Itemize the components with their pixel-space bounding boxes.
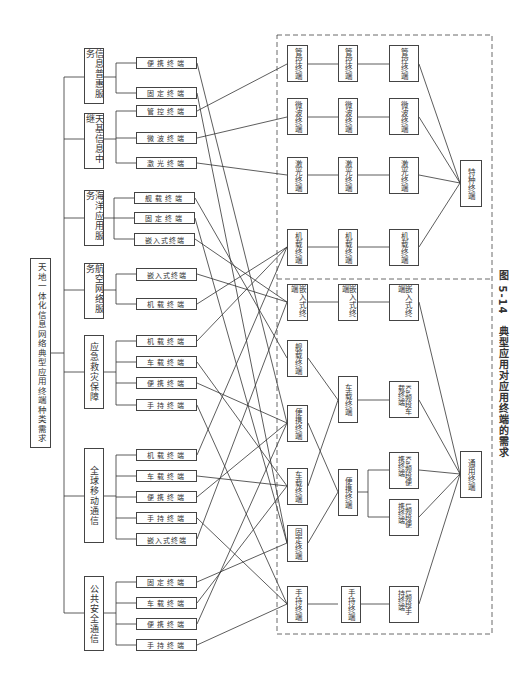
category-label: 航空网络服务 <box>85 264 103 318</box>
terminal-type-node: 嵌入式终端 <box>287 284 308 321</box>
category-node: 应急救灾保障 <box>84 335 104 409</box>
category-node: 天基信息中继 <box>84 113 104 169</box>
node-label: 车载终端 <box>344 384 352 416</box>
node-label: Ka频段便携终端 <box>397 456 411 486</box>
category-node: 公共安全通信 <box>84 576 104 651</box>
leaf-label: 便携终端 <box>147 492 187 502</box>
terminal-type-node: 车载终端 <box>338 376 358 423</box>
node-label: 嵌入式终端 <box>397 285 412 320</box>
leaf-node: 嵌入式终端 <box>134 233 195 246</box>
node-label: Ka频段车载终端 <box>397 385 411 415</box>
leaf-label: 固定终端 <box>147 88 187 98</box>
leaf-node: 固定终端 <box>136 87 197 99</box>
leaf-node: 嵌入式终端 <box>136 533 197 546</box>
node-label: 特种终端 <box>467 168 475 200</box>
leaf-label: 机载终端 <box>147 450 187 460</box>
general-terminal-node: 通用终端 <box>460 451 482 498</box>
node-label: 手持终端 <box>294 589 302 621</box>
node-label: 管控终端 <box>400 48 408 80</box>
leaf-node: 机载终端 <box>136 449 197 461</box>
leaf-label: 车载终端 <box>147 357 187 367</box>
leaf-node: 固定终端 <box>134 212 195 224</box>
terminal-type-node: 激光终端 <box>389 157 419 194</box>
terminal-type-node: 微波终端 <box>338 98 358 135</box>
node-label: 便携终端 <box>344 477 352 509</box>
leaf-label: 机载终端 <box>147 299 187 309</box>
node-label: 手持终端 <box>347 589 355 621</box>
category-label: 全球移动通信 <box>90 466 99 526</box>
leaf-node: 微波终端 <box>136 132 197 144</box>
leaf-label: 车载终端 <box>147 598 187 608</box>
leaf-node: 嵌入式终端 <box>136 268 197 281</box>
leaf-node: 便携终端 <box>136 57 197 69</box>
node-label: 舰载终端 <box>294 343 302 375</box>
leaf-node: 车载终端 <box>136 356 197 368</box>
figure-caption: 图 5-14 典型应用对应用终端的需求 <box>495 270 510 458</box>
category-label: 天基信息中继 <box>85 114 103 168</box>
category-label: 海洋应用服务 <box>85 191 103 245</box>
node-label: L频段便携终端 <box>397 503 411 533</box>
node-label: 激光终端 <box>294 160 302 192</box>
node-label: 机载终端 <box>344 232 352 264</box>
node-label: 激光终端 <box>344 160 352 192</box>
leaf-node: 舰载终端 <box>134 192 195 204</box>
terminal-type-node: 微波终端 <box>389 98 419 135</box>
leaf-node: 手持终端 <box>136 639 197 651</box>
leaf-node: 便携终端 <box>136 377 197 389</box>
terminal-type-node: 机载终端 <box>338 229 358 266</box>
leaf-label: 便携终端 <box>147 58 187 68</box>
band-terminal-node: Ka频段车载终端 <box>389 381 419 418</box>
node-label: 嵌入式终端 <box>341 285 356 320</box>
band-terminal-node: L频段便携终端 <box>389 499 419 536</box>
terminal-type-node: 激光终端 <box>287 157 308 194</box>
leaf-label: 舰载终端 <box>145 193 185 203</box>
terminal-type-node: 激光终端 <box>338 157 358 194</box>
terminal-type-node: 嵌入式终端 <box>338 284 358 321</box>
terminal-type-node: 嵌入式终端 <box>389 284 419 321</box>
terminal-type-node: 便携终端 <box>287 405 308 442</box>
root-node: 天地一体化信息网络典型应用终端种类需求 <box>30 258 51 448</box>
terminal-type-node: 手持终端 <box>341 586 361 623</box>
leaf-node: 固定终端 <box>136 576 197 588</box>
node-label: 激光终端 <box>400 160 408 192</box>
node-label: 便携终端 <box>294 408 302 440</box>
node-label: 微波终端 <box>294 101 302 133</box>
leaf-label: 机载终端 <box>147 336 187 346</box>
node-label: 管控终端 <box>294 48 302 80</box>
category-label: 信息普惠服务 <box>85 49 103 103</box>
band-terminal-node: L频段手持终端 <box>389 586 419 623</box>
leaf-label: 嵌入式终端 <box>147 535 187 545</box>
leaf-node: 激光终端 <box>136 157 197 169</box>
leaf-node: 车载终端 <box>136 597 197 609</box>
leaf-label: 手持终端 <box>147 513 187 523</box>
terminal-type-node: 车载终端 <box>287 468 308 505</box>
node-label: 嵌入式终端 <box>290 285 305 320</box>
leaf-node: 便携终端 <box>136 618 197 630</box>
node-label: 机载终端 <box>400 232 408 264</box>
category-node: 信息普惠服务 <box>84 48 104 104</box>
root-label: 天地一体化信息网络典型应用终端种类需求 <box>36 263 45 444</box>
leaf-node: 机载终端 <box>136 335 197 347</box>
node-label: 机载终端 <box>294 232 302 264</box>
category-node: 全球移动通信 <box>84 448 104 543</box>
category-label: 公共安全通信 <box>90 584 99 644</box>
leaf-node: 便携终端 <box>136 491 197 503</box>
leaf-label: 便携终端 <box>147 619 187 629</box>
leaf-node: 手持终端 <box>136 512 197 524</box>
terminal-type-node: 便携终端 <box>338 469 358 516</box>
leaf-label: 固定终端 <box>147 577 187 587</box>
leaf-node: 管控终端 <box>136 105 197 117</box>
leaf-label: 激光终端 <box>147 158 187 168</box>
leaf-label: 管控终端 <box>147 106 187 116</box>
leaf-label: 嵌入式终端 <box>145 235 185 245</box>
leaf-label: 便携终端 <box>147 378 187 388</box>
category-node: 海洋应用服务 <box>84 190 104 246</box>
node-label: 微波终端 <box>344 101 352 133</box>
node-label: 管控终端 <box>344 48 352 80</box>
leaf-node: 车载终端 <box>136 470 197 482</box>
leaf-label: 微波终端 <box>147 133 187 143</box>
category-label: 应急救灾保障 <box>90 342 99 402</box>
connector-lines <box>0 0 532 685</box>
category-node: 航空网络服务 <box>84 263 104 319</box>
terminal-type-node: 管控终端 <box>389 45 419 82</box>
